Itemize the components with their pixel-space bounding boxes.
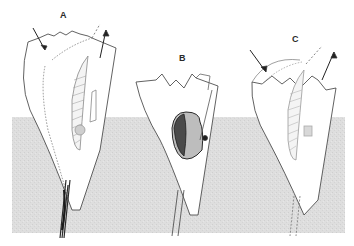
panel-label-c: C [292, 34, 299, 44]
panel-label-a: A [60, 10, 67, 20]
panel-label-b: B [179, 53, 186, 63]
illustration-figure: A B C [0, 0, 354, 246]
illustration-canvas [0, 0, 354, 246]
